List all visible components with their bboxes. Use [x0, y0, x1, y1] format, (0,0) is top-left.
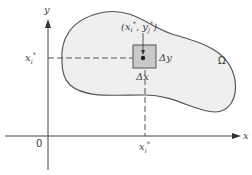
x-axis-marker-label: xi* — [139, 140, 151, 155]
region-label: Ω — [218, 55, 226, 66]
delta-x-label: Δx — [135, 71, 149, 82]
x-axis-label: x — [243, 130, 249, 141]
origin-label: 0 — [36, 138, 42, 149]
y-axis-label: y — [43, 4, 50, 15]
y-axis-marker-label: xi* — [25, 51, 37, 66]
sample-point — [141, 56, 145, 60]
delta-y-label: Δy — [158, 52, 172, 63]
x-axis-arrow-icon — [232, 133, 241, 139]
region-diagram: y x 0 Ω (xi*, yj*) Δy Δx xi* xi* — [0, 0, 252, 175]
y-axis-arrow-icon — [45, 19, 51, 28]
